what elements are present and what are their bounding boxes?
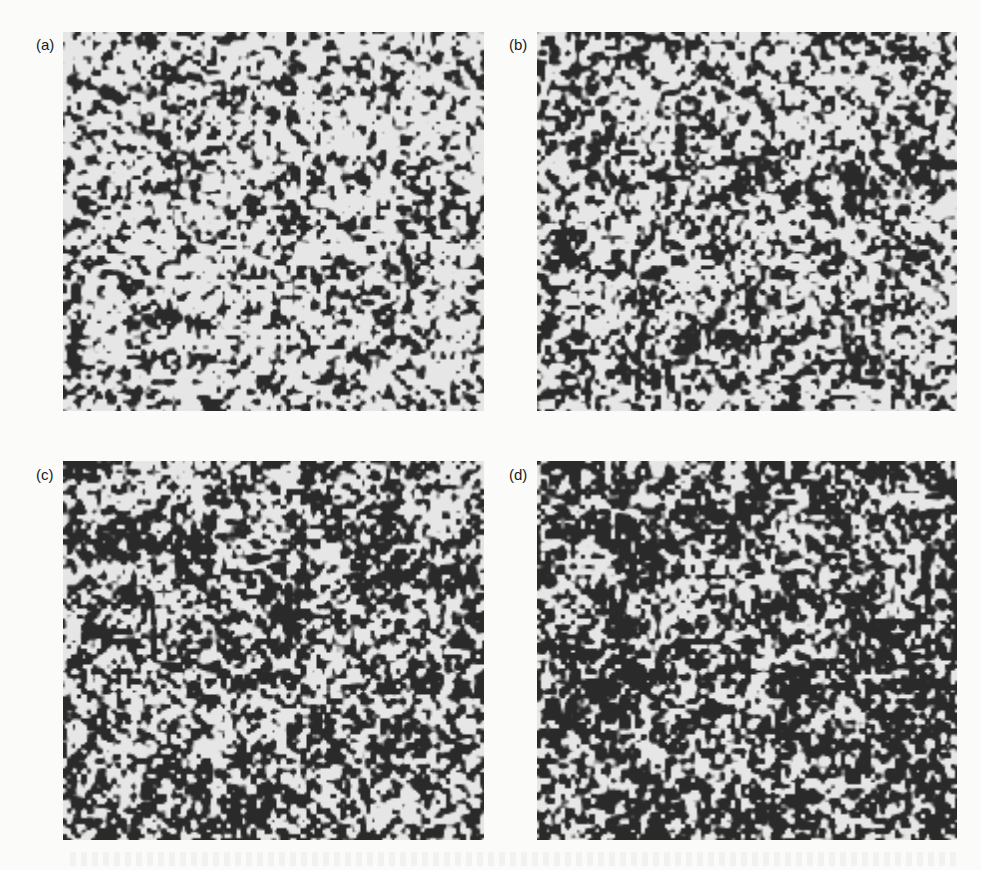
bleed-through-text bbox=[70, 852, 961, 866]
panel-label-c: (c) bbox=[36, 467, 54, 482]
panel-d-image bbox=[537, 461, 957, 840]
panel-b-image bbox=[537, 32, 957, 411]
panel-label-a: (a) bbox=[36, 37, 54, 52]
panel-label-b: (b) bbox=[509, 37, 527, 52]
panel-a-image bbox=[63, 32, 484, 411]
panel-c-image bbox=[63, 461, 484, 840]
panel-label-d: (d) bbox=[509, 467, 527, 482]
